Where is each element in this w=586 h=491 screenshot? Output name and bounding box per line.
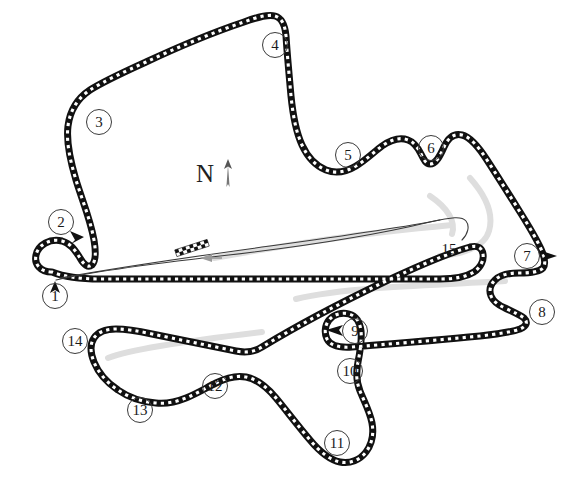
turn-marker-11: 11	[324, 430, 350, 456]
circuit-track-drawing: .band { fill: none; stroke: #111111; str…	[0, 0, 586, 491]
track-band	[36, 15, 545, 462]
turn-marker-6: 6	[418, 135, 444, 161]
north-arrow-icon	[221, 158, 235, 188]
turn-marker-2: 2	[48, 209, 74, 235]
turn-marker-5: 5	[335, 142, 361, 168]
turn-marker-4: 4	[262, 32, 288, 58]
turn-marker-8: 8	[529, 299, 555, 325]
turn-marker-14: 14	[62, 328, 88, 354]
turn-marker-9: 9	[342, 318, 368, 344]
circuit-map: .band { fill: none; stroke: #111111; str…	[0, 0, 586, 491]
turn-marker-3: 3	[86, 109, 112, 135]
compass-north-indicator: N	[196, 158, 235, 188]
compass-letter: N	[196, 161, 214, 186]
turn-marker-1: 1	[42, 283, 68, 309]
turn-2-arrow-icon	[70, 231, 84, 244]
track-shadow-paths	[108, 178, 505, 358]
start-finish-marker	[175, 239, 209, 256]
turn-marker-13: 13	[127, 397, 153, 423]
turn-marker-12: 12	[202, 373, 228, 399]
turn-marker-7: 7	[514, 243, 540, 269]
turn-marker-15: 15	[436, 236, 462, 262]
turn-marker-10: 10	[337, 358, 363, 384]
